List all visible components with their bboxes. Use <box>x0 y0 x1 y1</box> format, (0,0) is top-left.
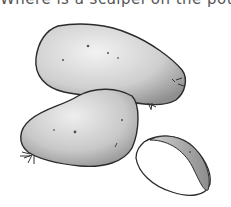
potato-illustration <box>0 0 231 207</box>
cut-potato-half <box>136 136 210 195</box>
medium-potato <box>20 89 138 166</box>
